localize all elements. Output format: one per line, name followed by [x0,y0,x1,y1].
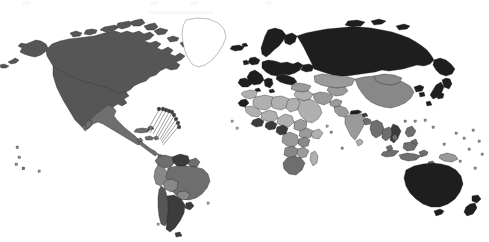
islet-marker-8 [176,121,180,125]
country-angola-zambia [284,146,298,158]
world-map-figure [0,0,489,242]
islet-marker-1 [157,107,161,111]
islet-marker-6 [172,113,176,117]
country-south-korea [419,92,425,97]
islet-marker-9 [177,125,181,129]
world-map-canvas [0,0,489,242]
country-ukraine-belarus [301,64,314,72]
islet-marker-7 [174,117,178,121]
